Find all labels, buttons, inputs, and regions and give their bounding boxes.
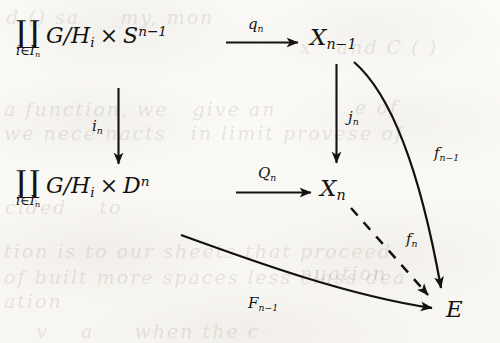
diagram-page: d () sa my, mon x and C ( ) a function, … <box>0 0 500 343</box>
disk-label: D <box>123 173 141 198</box>
node-body-sphere: G/Hi×Sn−1 <box>46 25 167 50</box>
quotient-label: G/H <box>46 23 90 48</box>
x-base: X <box>310 24 326 50</box>
x-subscript: n−1 <box>326 36 356 52</box>
coproduct-index-label: i∈In <box>16 194 40 210</box>
arrow-label-i-n: in <box>92 119 103 135</box>
quotient-subscript: i <box>90 34 94 50</box>
arrow-label-f-n: fn <box>406 232 418 248</box>
sphere-label: S <box>123 23 138 48</box>
x-base: X <box>320 175 336 201</box>
label-subscript: n <box>258 23 264 34</box>
label-subscript: n <box>270 172 276 183</box>
x-subscript: n <box>336 187 345 203</box>
node-coproduct-disk: ∐ i∈In G/Hi×Dn <box>16 167 150 207</box>
label-subscript: n <box>97 125 103 136</box>
label-subscript: n <box>412 238 418 249</box>
coproduct-icon: ∐ <box>16 20 40 43</box>
quotient-label: G/H <box>46 173 90 198</box>
index-subscript: n <box>35 51 40 60</box>
node-x-n-minus-1: Xn−1 <box>310 26 357 52</box>
arrow-label-j-n: jn <box>348 110 359 126</box>
index-subscript: n <box>35 201 40 210</box>
coproduct-index-label: i∈In <box>16 44 40 60</box>
sphere-exponent: n−1 <box>138 23 167 39</box>
label-base: F <box>248 294 258 312</box>
arrow-f-n-dashed-line <box>351 208 428 295</box>
node-e: E <box>446 298 463 321</box>
arrow-f-n-minus-1-curve <box>354 62 441 288</box>
label-base: Q <box>258 164 270 182</box>
node-x-n: Xn <box>320 177 346 203</box>
arrow-label-q-n: qn <box>248 17 264 33</box>
node-coproduct-sphere: ∐ i∈In G/Hi×Sn−1 <box>16 17 167 57</box>
label-subscript: n−1 <box>440 152 460 163</box>
disk-exponent: n <box>141 173 150 189</box>
arrow-label-f-n-minus-1: fn−1 <box>434 146 459 162</box>
arrow-capital-f-n-minus-1-curve <box>181 235 432 308</box>
coproduct-symbol-group: ∐ i∈In <box>16 20 40 60</box>
coproduct-icon: ∐ <box>16 170 40 193</box>
coproduct-symbol-group: ∐ i∈In <box>16 170 40 210</box>
times-icon: × <box>100 23 118 48</box>
times-icon: × <box>100 173 118 198</box>
label-base: q <box>248 15 258 33</box>
index-base: i∈I <box>16 193 35 208</box>
e-base: E <box>446 296 463 322</box>
arrow-label-capital-q-n: Qn <box>258 166 276 182</box>
label-subscript: n <box>353 116 359 127</box>
label-subscript: n−1 <box>258 302 278 313</box>
node-body-disk: G/Hi×Dn <box>46 175 149 200</box>
index-base: i∈I <box>16 43 35 58</box>
quotient-subscript: i <box>90 184 94 200</box>
arrow-label-capital-f-n-minus-1: Fn−1 <box>248 296 278 312</box>
